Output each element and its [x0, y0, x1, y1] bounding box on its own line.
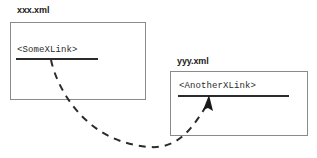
document-label-yyy: yyy.xml [177, 56, 209, 66]
xlink-element-name-some: <SomeXLink> [17, 45, 78, 55]
document-box-xxx [10, 22, 146, 100]
diagram-canvas: xxx.xml <SomeXLink> yyy.xml <AnotherXLin… [0, 0, 317, 158]
xlink-element-name-another: <AnotherXLink> [179, 81, 256, 91]
xlink-underline-another [178, 95, 289, 97]
document-label-xxx: xxx.xml [17, 5, 49, 15]
xlink-underline-some [16, 58, 98, 60]
